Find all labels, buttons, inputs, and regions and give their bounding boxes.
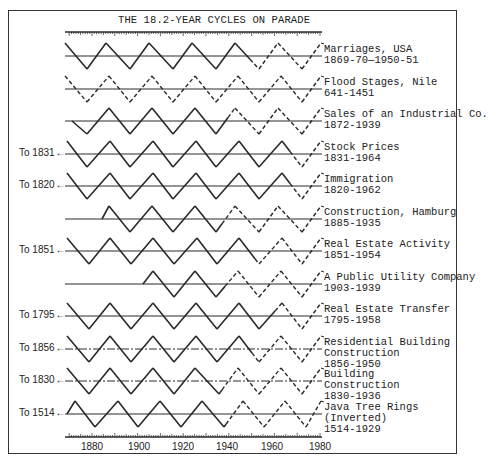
cycle-row: [65, 76, 324, 102]
series-years: 1885-1935: [324, 218, 456, 229]
top-ruler: [65, 32, 322, 36]
left-arrow-icon: ←: [56, 147, 66, 158]
cycle-row: [65, 303, 324, 329]
left-arrow-icon: ←: [56, 244, 66, 255]
extends-to-label: To 1831←: [19, 147, 66, 158]
series-years: 1514-1929: [324, 424, 419, 435]
extends-to-label: To 1795←: [19, 309, 66, 320]
cycle-row: [65, 238, 324, 264]
series-label: Construction, Hamburg1885-1935: [324, 207, 456, 229]
series-name: Building Construction: [324, 369, 400, 391]
extends-to-text: To 1795: [19, 309, 55, 320]
extends-to-text: To 1851: [19, 244, 55, 255]
x-axis-tick-label: 1960: [261, 441, 283, 452]
cycle-row: [65, 43, 324, 69]
cycle-rows: [65, 43, 324, 427]
series-label: Building Construction1830-1936: [324, 369, 400, 402]
x-axis-tick-label: 1980: [309, 441, 331, 452]
series-years: 1903-1939: [324, 283, 475, 294]
extends-to-label: To 1830←: [19, 374, 66, 385]
bottom-ruler: [65, 433, 322, 437]
series-name: Java Tree Rings (Inverted): [324, 402, 419, 424]
x-axis-tick-label: 1880: [81, 441, 103, 452]
cycle-row: [65, 368, 324, 394]
cycle-row: [65, 336, 324, 362]
series-years: 1820-1962: [324, 185, 393, 196]
cycle-row: [65, 108, 324, 134]
cycle-row: [65, 401, 324, 427]
series-label: Immigration1820-1962: [324, 174, 393, 196]
extends-to-label: To 1856←: [19, 342, 66, 353]
extends-to-text: To 1820: [19, 179, 55, 190]
series-years: 641-1451: [324, 88, 437, 99]
left-arrow-icon: ←: [56, 179, 66, 190]
extends-to-text: To 1830: [19, 374, 55, 385]
x-axis-tick-label: 1900: [128, 441, 150, 452]
cycle-row: [65, 271, 324, 297]
left-arrow-icon: ←: [56, 407, 66, 418]
x-axis-tick-label: 1940: [216, 441, 238, 452]
series-label: Java Tree Rings (Inverted)1514-1929: [324, 402, 419, 435]
series-years: 1872-1939: [324, 120, 488, 131]
cycle-row: [65, 141, 324, 167]
series-label: Residential Building Construction1856-19…: [324, 337, 450, 370]
left-arrow-icon: ←: [56, 342, 66, 353]
series-label: A Public Utility Company1903-1939: [324, 272, 475, 294]
series-label: Marriages, USA1869-70—1950-51: [324, 44, 419, 66]
extends-to-label: To 1514←: [19, 407, 66, 418]
series-label: Sales of an Industrial Co.1872-1939: [324, 109, 488, 131]
series-years: 1869-70—1950-51: [324, 55, 419, 66]
extends-to-text: To 1514: [19, 407, 55, 418]
series-label: Real Estate Transfer1795-1958: [324, 304, 450, 326]
extends-to-label: To 1851←: [19, 244, 66, 255]
cycle-row: [65, 206, 324, 232]
extends-to-label: To 1820←: [19, 179, 66, 190]
left-arrow-icon: ←: [56, 309, 66, 320]
x-axis-tick-label: 1920: [172, 441, 194, 452]
series-years: 1795-1958: [324, 315, 450, 326]
series-name: Residential Building Construction: [324, 337, 450, 359]
left-arrow-icon: ←: [56, 374, 66, 385]
series-label: Real Estate Activity1851-1954: [324, 239, 450, 261]
extends-to-text: To 1831: [19, 147, 55, 158]
cycle-row: [65, 173, 324, 199]
series-label: Flood Stages, Nile641-1451: [324, 77, 437, 99]
series-years: 1851-1954: [324, 250, 450, 261]
series-years: 1831-1964: [324, 153, 400, 164]
extends-to-text: To 1856: [19, 342, 55, 353]
series-label: Stock Prices1831-1964: [324, 142, 400, 164]
